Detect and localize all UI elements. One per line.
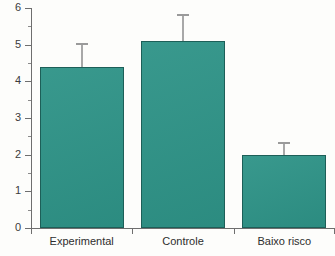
x-axis-label: Experimental <box>31 236 132 247</box>
error-bar-stem <box>81 43 83 67</box>
y-tick-label: 5 <box>3 39 21 50</box>
y-tick-minor <box>28 136 31 137</box>
y-tick-minor <box>28 210 31 211</box>
y-tick-major <box>25 45 31 46</box>
y-tick-label: 3 <box>3 112 21 123</box>
error-bar-cap <box>278 142 290 144</box>
y-tick-minor <box>28 63 31 64</box>
y-axis-spine <box>31 8 32 229</box>
y-tick-minor <box>28 173 31 174</box>
y-tick-label: 6 <box>3 2 21 13</box>
bar <box>141 41 225 228</box>
error-bar-cap <box>177 14 189 16</box>
error-bar-stem <box>182 14 184 42</box>
error-bar-cap <box>76 43 88 45</box>
y-tick-label: 1 <box>3 185 21 196</box>
y-tick-minor <box>28 100 31 101</box>
x-tick <box>31 229 32 234</box>
y-tick-label: 0 <box>3 222 21 233</box>
x-tick <box>132 229 133 234</box>
x-axis-spine <box>31 228 335 229</box>
x-tick <box>234 229 235 234</box>
y-tick-major <box>25 118 31 119</box>
bar-chart: 0123456 ExperimentalControleBaixo risco <box>0 0 335 256</box>
y-tick-major <box>25 81 31 82</box>
y-tick-label: 4 <box>3 75 21 86</box>
x-axis-label: Baixo risco <box>234 236 335 247</box>
y-tick-major <box>25 155 31 156</box>
x-axis-label: Controle <box>132 236 233 247</box>
y-tick-major <box>25 8 31 9</box>
bar <box>40 67 124 228</box>
y-tick-minor <box>28 26 31 27</box>
y-tick-major <box>25 191 31 192</box>
bar <box>242 155 326 228</box>
y-tick-label: 2 <box>3 149 21 160</box>
